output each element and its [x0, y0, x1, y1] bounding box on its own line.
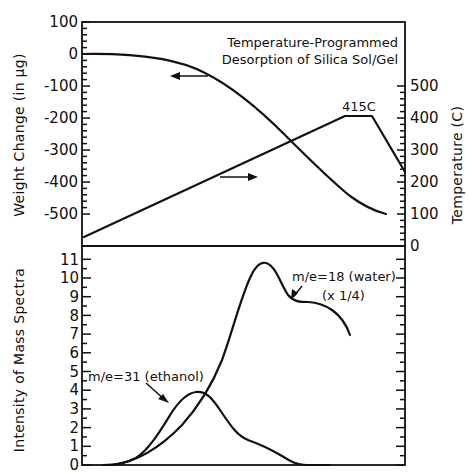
intensity-tick-8: 8 [69, 307, 79, 325]
water-pointer-arrow-icon [291, 286, 302, 300]
temp-tick-0: 0 [410, 237, 420, 255]
water-label: m/e=18 (water) [292, 269, 396, 284]
chart-title-line2: Desorption of Silica Sol/Gel [222, 52, 398, 67]
weight-axis-ticks [82, 22, 90, 214]
temperature-axis-title: Temperature (C) [449, 106, 465, 225]
ethanol-pointer-arrow-icon [146, 383, 169, 403]
intensity-tick-10: 10 [60, 269, 79, 287]
intensity-tick-11: 11 [60, 251, 79, 269]
temp-tick-100: 100 [410, 205, 439, 223]
weight-tick-0: 0 [68, 45, 78, 63]
peak-temp-label: 415C [342, 99, 376, 114]
intensity-tick-0: 0 [69, 456, 79, 474]
intensity-tick-6: 6 [69, 344, 79, 362]
weight-tick-neg500: -500 [44, 205, 78, 223]
intensity-tick-7: 7 [69, 325, 79, 343]
weight-tick-100: 100 [49, 13, 78, 31]
intensity-tick-9: 9 [69, 288, 79, 306]
weight-tick-labels: 100 0 -100 -200 -300 -400 -500 [44, 13, 78, 223]
intensity-tick-labels: 11 10 9 8 7 6 5 4 3 2 1 0 [60, 251, 79, 474]
chart-title-line1: Temperature-Programmed [226, 35, 398, 50]
weight-tick-neg200: -200 [44, 109, 78, 127]
intensity-tick-2: 2 [69, 419, 79, 437]
intensity-tick-5: 5 [69, 363, 79, 381]
temp-tick-200: 200 [410, 173, 439, 191]
temp-tick-400: 400 [410, 109, 439, 127]
right-arrow-icon [220, 173, 258, 181]
water-curve [112, 263, 350, 465]
water-scale-label: (x 1/4) [322, 288, 365, 303]
intensity-tick-4: 4 [69, 381, 79, 399]
intensity-tick-1: 1 [69, 437, 79, 455]
tpd-chart: 100 0 -100 -200 -300 -400 -500 500 400 3… [0, 0, 468, 474]
temp-tick-300: 300 [410, 141, 439, 159]
ethanol-curve [103, 392, 330, 465]
temperature-tick-labels: 500 400 300 200 100 0 [410, 77, 439, 255]
weight-change-curve [82, 54, 386, 214]
weight-axis-title: Weight Change (in µg) [11, 53, 27, 217]
temp-tick-500: 500 [410, 77, 439, 95]
intensity-axis-title: Intensity of Mass Spectra [11, 268, 27, 452]
left-arrow-icon [170, 72, 208, 80]
weight-tick-neg300: -300 [44, 141, 78, 159]
ethanol-label: m/e=31 (ethanol) [88, 369, 204, 384]
intensity-tick-3: 3 [69, 400, 79, 418]
weight-tick-neg100: -100 [44, 77, 78, 95]
weight-tick-neg400: -400 [44, 173, 78, 191]
